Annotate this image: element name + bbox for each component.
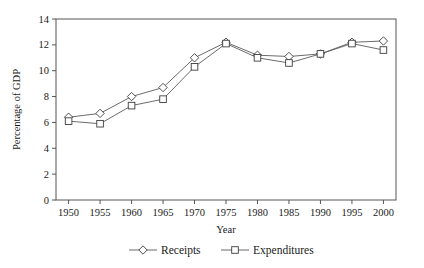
marker-square: [128, 102, 135, 109]
marker-square: [65, 118, 72, 125]
series-line-receipts: [69, 41, 384, 117]
x-tick-label: 1955: [90, 207, 111, 218]
x-tick-label: 1950: [58, 207, 79, 218]
marker-square: [254, 54, 261, 61]
x-tick-label: 1965: [153, 207, 174, 218]
marker-square: [232, 247, 239, 254]
marker-square: [191, 64, 198, 71]
x-tick-label: 1990: [310, 207, 331, 218]
y-tick-label: 14: [39, 14, 50, 25]
x-tick-label: 1975: [216, 207, 237, 218]
marker-square: [380, 47, 387, 54]
y-tick-label: 0: [44, 195, 49, 206]
y-tick-label: 10: [39, 65, 50, 76]
y-tick-label: 6: [44, 117, 49, 128]
marker-diamond: [96, 109, 104, 117]
y-tick-label: 12: [39, 39, 50, 50]
marker-square: [317, 51, 324, 58]
marker-diamond: [127, 92, 135, 100]
x-tick-label: 1995: [341, 207, 362, 218]
x-tick-label: 1960: [121, 207, 142, 218]
x-axis-title: Year: [216, 224, 236, 235]
x-tick-label: 1970: [184, 207, 205, 218]
legend-label-expenditures: Expenditures: [253, 244, 314, 257]
x-tick-label: 1980: [247, 207, 268, 218]
chart-figure: 0246810121419501955196019651970197519801…: [0, 0, 424, 268]
marker-square: [349, 40, 356, 47]
marker-square: [97, 120, 104, 127]
legend-label-receipts: Receipts: [161, 244, 201, 257]
y-tick-label: 2: [44, 169, 49, 180]
y-axis-title: Percentage of GDP: [11, 69, 22, 150]
marker-square: [223, 40, 230, 47]
marker-diamond: [139, 246, 147, 254]
x-tick-label: 1985: [278, 207, 299, 218]
line-chart: 0246810121419501955196019651970197519801…: [0, 0, 424, 268]
x-tick-label: 2000: [373, 207, 394, 218]
marker-square: [160, 96, 167, 103]
y-tick-label: 8: [44, 91, 49, 102]
series-line-expenditures: [69, 44, 384, 124]
marker-diamond: [379, 37, 387, 45]
y-tick-label: 4: [44, 143, 50, 154]
marker-square: [286, 60, 293, 67]
